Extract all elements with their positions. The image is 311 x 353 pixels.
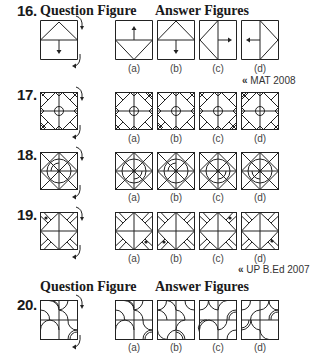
source-citation: « UP B.Ed 2007 xyxy=(238,264,310,275)
q20-answer-b[interactable] xyxy=(157,300,195,340)
question-number-17: 17. xyxy=(17,86,37,103)
source-marker-icon: « xyxy=(242,75,248,86)
q16-answer-c[interactable] xyxy=(199,20,237,60)
answer-figures-header: Answer Figures xyxy=(155,279,249,295)
q18-answer-b[interactable] xyxy=(157,152,195,190)
q17-answer-d[interactable] xyxy=(241,92,279,130)
answer-label-c: (c) xyxy=(199,342,237,353)
rotation-arrow-icon xyxy=(74,86,86,102)
answer-label-c: (c) xyxy=(199,63,237,74)
rotation-arrow-icon xyxy=(74,294,86,310)
answer-label-c: (c) xyxy=(199,192,237,203)
q19-answer-d[interactable] xyxy=(241,212,279,250)
source-citation: « MAT 2008 xyxy=(242,75,296,86)
answer-label-b: (b) xyxy=(157,63,195,74)
q17-answer-c[interactable] xyxy=(199,92,237,130)
answer-label-d: (d) xyxy=(241,133,279,144)
q19-answer-b[interactable] xyxy=(157,212,195,250)
question-number-16: 16. xyxy=(17,2,37,19)
answer-figures-header: Answer Figures xyxy=(155,3,249,19)
question-number-20: 20. xyxy=(17,296,37,313)
q16-answer-b[interactable] xyxy=(157,20,195,60)
q17-answer-a[interactable] xyxy=(115,92,153,130)
rotation-arrow-icon xyxy=(72,184,84,200)
answer-label-a: (a) xyxy=(115,253,153,264)
answer-label-a: (a) xyxy=(115,63,153,74)
answer-label-d: (d) xyxy=(241,63,279,74)
q20-answer-c[interactable] xyxy=(199,300,237,340)
answer-label-a: (a) xyxy=(115,133,153,144)
source-text: MAT 2008 xyxy=(250,75,295,86)
answer-label-b: (b) xyxy=(157,133,195,144)
rotation-arrow-icon xyxy=(72,244,84,260)
q20-answer-d[interactable] xyxy=(241,300,279,340)
q19-answer-a[interactable] xyxy=(115,212,153,250)
answer-label-b: (b) xyxy=(157,253,195,264)
q16-answer-a[interactable] xyxy=(115,20,153,60)
rotation-arrow-icon xyxy=(72,334,84,350)
question-number-18: 18. xyxy=(17,146,37,163)
rotation-arrow-icon xyxy=(72,124,84,140)
q18-answer-c[interactable] xyxy=(199,152,237,190)
question-number-19: 19. xyxy=(17,206,37,223)
rotation-arrow-icon xyxy=(74,146,86,162)
answer-label-b: (b) xyxy=(157,192,195,203)
answer-label-d: (d) xyxy=(241,253,279,264)
question-figure-header: Question Figure xyxy=(40,279,137,295)
q16-answer-d[interactable] xyxy=(241,20,279,60)
source-text: UP B.Ed 2007 xyxy=(246,264,309,275)
rotation-arrow-icon xyxy=(74,15,86,31)
question-figure-header: Question Figure xyxy=(40,3,137,19)
answer-label-d: (d) xyxy=(241,342,279,353)
answer-label-d: (d) xyxy=(241,192,279,203)
answer-label-a: (a) xyxy=(115,342,153,353)
q18-answer-a[interactable] xyxy=(115,152,153,190)
rotation-arrow-icon xyxy=(74,206,86,222)
answer-label-c: (c) xyxy=(199,253,237,264)
q19-answer-c[interactable] xyxy=(199,212,237,250)
answer-label-b: (b) xyxy=(157,342,195,353)
q18-answer-d[interactable] xyxy=(241,152,279,190)
answer-label-a: (a) xyxy=(115,192,153,203)
q17-answer-b[interactable] xyxy=(157,92,195,130)
answer-label-c: (c) xyxy=(199,133,237,144)
source-marker-icon: « xyxy=(238,264,244,275)
q20-answer-a[interactable] xyxy=(115,300,153,340)
rotation-arrow-icon xyxy=(72,53,84,69)
